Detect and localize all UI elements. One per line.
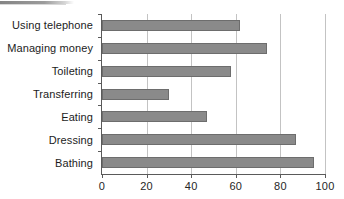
- y-axis-tick: [98, 37, 102, 38]
- x-axis-tick-label: 100: [316, 180, 335, 192]
- x-axis-tick: [236, 174, 237, 178]
- plot-area: 020406080100: [102, 14, 325, 174]
- y-axis-tick: [98, 128, 102, 129]
- chart-figure: BathingDressingEatingTransferringToileti…: [0, 0, 344, 199]
- x-axis-tick: [102, 174, 103, 178]
- x-axis-tick: [147, 174, 148, 178]
- bar[interactable]: [102, 20, 240, 31]
- scan-artifact-streak-fade: [0, 4, 66, 5]
- category-axis-labels: BathingDressingEatingTransferringToileti…: [0, 14, 97, 174]
- category-label: Managing money: [7, 42, 93, 54]
- y-axis-tick: [98, 83, 102, 84]
- category-label: Bathing: [55, 157, 93, 169]
- category-label: Transferring: [33, 88, 93, 100]
- bar[interactable]: [102, 157, 314, 168]
- category-label: Eating: [61, 111, 93, 123]
- x-axis-tick-label: 60: [229, 180, 242, 192]
- category-label: Toileting: [52, 65, 93, 77]
- bar[interactable]: [102, 43, 267, 54]
- y-axis-tick: [98, 105, 102, 106]
- x-gridline: [280, 14, 281, 174]
- x-axis-tick-label: 20: [140, 180, 153, 192]
- y-axis-tick: [98, 151, 102, 152]
- x-axis-tick-label: 40: [185, 180, 198, 192]
- y-axis-tick: [98, 14, 102, 15]
- x-gridline: [191, 14, 192, 174]
- x-gridline: [325, 14, 326, 174]
- y-axis-tick: [98, 60, 102, 61]
- x-axis-tick-label: 0: [99, 180, 105, 192]
- x-axis-tick: [325, 174, 326, 178]
- category-label: Dressing: [49, 134, 93, 146]
- x-axis-tick: [280, 174, 281, 178]
- bar[interactable]: [102, 111, 207, 122]
- bar[interactable]: [102, 66, 231, 77]
- category-label: Using telephone: [12, 19, 93, 31]
- x-axis-tick-label: 80: [274, 180, 287, 192]
- bar[interactable]: [102, 134, 296, 145]
- x-axis-line: [101, 174, 326, 175]
- bar[interactable]: [102, 89, 169, 100]
- x-gridline: [236, 14, 237, 174]
- x-axis-tick: [191, 174, 192, 178]
